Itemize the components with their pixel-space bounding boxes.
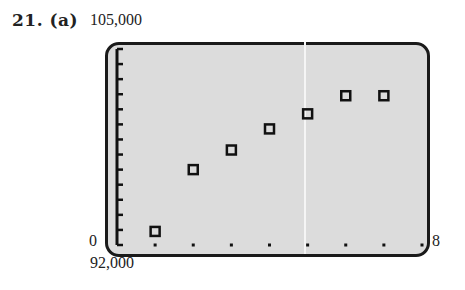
data-point-square-icon <box>303 109 312 118</box>
x-axis-tick-dot <box>306 244 309 247</box>
data-point-square-icon <box>341 91 350 100</box>
x-axis-tick-dot <box>230 244 233 247</box>
x-axis-tick-dot <box>268 244 271 247</box>
scatter-plot <box>0 0 465 290</box>
data-point-square-icon <box>265 124 274 133</box>
x-axis-tick-dot <box>382 244 385 247</box>
data-point-square-icon <box>151 227 160 236</box>
x-axis-tick-dot <box>344 244 347 247</box>
x-axis-tick-dot <box>154 244 157 247</box>
data-point-square-icon <box>379 91 388 100</box>
data-point-square-icon <box>227 146 236 155</box>
x-axis-tick-dot <box>421 244 424 247</box>
data-point-square-icon <box>189 165 198 174</box>
x-axis-tick-dot <box>192 244 195 247</box>
